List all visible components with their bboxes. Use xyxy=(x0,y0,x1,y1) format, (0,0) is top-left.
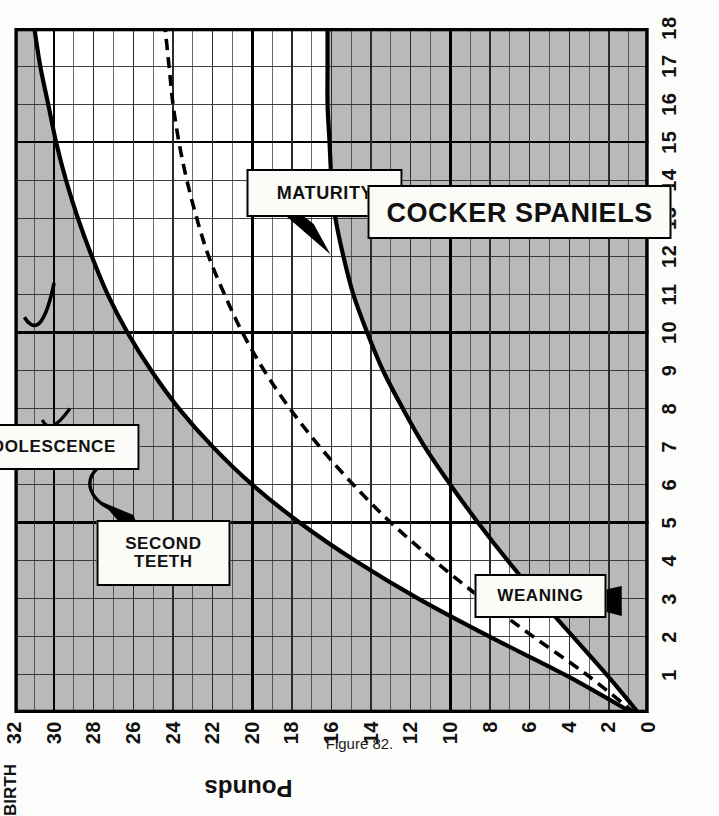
x-tick-15: 15 xyxy=(658,120,678,164)
annotation-adolescence-label: ADOLESCENCE xyxy=(0,438,115,456)
plot-area: WEANING SECONDTEETH ADOLESCENCE MATURITY… xyxy=(14,28,648,713)
rotated-chart-wrapper: 02468101214161820222426283032 Pounds BIR… xyxy=(0,0,719,816)
y-axis-title: Pounds xyxy=(204,774,292,802)
x-tick-16: 16 xyxy=(658,82,678,126)
figure-page: 02468101214161820222426283032 Pounds BIR… xyxy=(0,0,719,816)
x-tick-1: 1 xyxy=(658,653,678,697)
x-tick-10: 10 xyxy=(658,310,678,354)
x-tick-9: 9 xyxy=(658,349,678,393)
x-tick-6: 6 xyxy=(658,463,678,507)
x-tick-17: 17 xyxy=(658,44,678,88)
figure-caption: Figure 82. xyxy=(0,735,719,752)
annotation-second-teeth: SECONDTEETH xyxy=(96,520,230,586)
annotation-weaning-label: WEANING xyxy=(497,587,583,605)
annotation-second-teeth-label: SECONDTEETH xyxy=(124,535,200,571)
x-tick-12: 12 xyxy=(658,234,678,278)
x-tick-11: 11 xyxy=(658,272,678,316)
annotation-maturity-label: MATURITY xyxy=(276,184,372,203)
x-tick-3: 3 xyxy=(658,577,678,621)
x-tick-4: 4 xyxy=(658,539,678,583)
chart-title-box: COCKER SPANIELS xyxy=(367,185,671,239)
x-tick-7: 7 xyxy=(658,425,678,469)
annotation-adolescence: ADOLESCENCE xyxy=(0,424,139,470)
x-tick-5: 5 xyxy=(658,501,678,545)
chart-title-label: COCKER SPANIELS xyxy=(386,198,653,226)
x-tick-8: 8 xyxy=(658,387,678,431)
annotation-weaning: WEANING xyxy=(474,574,606,618)
x-tick-2: 2 xyxy=(658,615,678,659)
x-tick-18: 18 xyxy=(658,6,678,50)
